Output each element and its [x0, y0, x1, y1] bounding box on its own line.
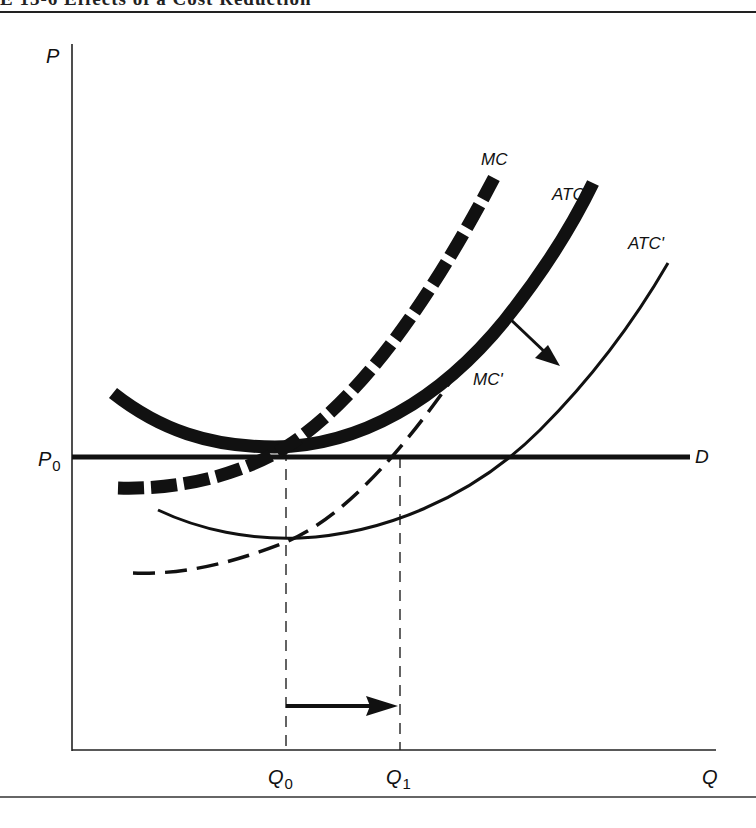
q0-label: Q0 [268, 766, 293, 792]
atc-prime-label: ATC' [627, 234, 665, 253]
demand-label: D [695, 446, 709, 467]
p0-label: P0 [38, 448, 61, 474]
mc-label: MC [481, 150, 508, 169]
output-arrow-head-icon [366, 696, 398, 716]
mc-prime-label: MC' [473, 370, 503, 389]
atc-label: ATC [551, 185, 585, 204]
cost-reduction-diagram: P Q P0 Q0 Q1 D MC ATC ATC' MC' [0, 0, 756, 828]
x-axis-label: Q [702, 766, 718, 788]
q1-label: Q1 [386, 766, 411, 792]
y-axis-label: P [46, 45, 60, 67]
atc-curve [113, 183, 593, 447]
shift-arrow-shaft [508, 317, 548, 355]
